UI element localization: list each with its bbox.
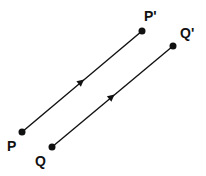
- point-p-prime: [139, 28, 146, 35]
- label-q: Q: [35, 153, 46, 169]
- label-p-prime: P': [144, 8, 157, 24]
- point-q-prime: [170, 43, 177, 50]
- label-q-prime: Q': [180, 25, 194, 41]
- point-q: [49, 144, 56, 151]
- point-p: [19, 129, 26, 136]
- translation-diagram: P P' Q Q': [0, 0, 206, 176]
- label-p: P: [7, 138, 16, 154]
